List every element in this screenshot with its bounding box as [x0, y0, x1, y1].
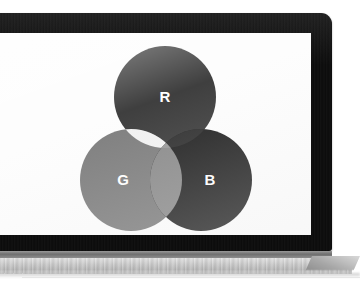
laptop-keyboard-deck	[0, 258, 352, 274]
keyboard-keys-blur	[0, 258, 352, 274]
laptop-photo: R G B	[0, 0, 360, 282]
venn-diagram: R G B	[0, 33, 311, 235]
laptop-screen: R G B	[0, 33, 311, 235]
surface-line	[22, 277, 360, 278]
venn-diagram-svg: R G B	[0, 33, 311, 235]
laptop-hinge	[0, 251, 332, 258]
venn-label-red: R	[160, 88, 171, 105]
venn-label-green: G	[117, 171, 129, 188]
venn-label-blue: B	[205, 171, 216, 188]
laptop-base-right-edge	[306, 256, 360, 270]
screenshot-root: R G B	[0, 0, 360, 282]
